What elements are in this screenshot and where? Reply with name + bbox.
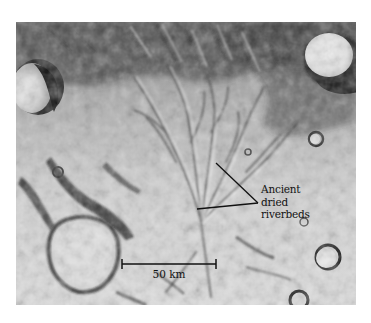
annotation-line-2: dried bbox=[261, 196, 310, 209]
scale-bar-label: 50 km bbox=[139, 268, 199, 280]
leader-line-lower bbox=[197, 203, 258, 209]
annotation-line-3: riverbeds bbox=[261, 208, 310, 221]
riverbed-annotation: Ancient dried riverbeds bbox=[261, 183, 310, 221]
annotation-line-1: Ancient bbox=[261, 183, 310, 196]
leader-line-upper bbox=[216, 163, 258, 203]
